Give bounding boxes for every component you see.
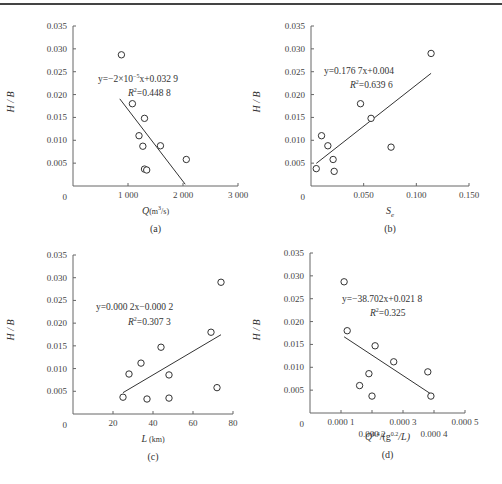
data-point [366,370,372,376]
x-tick-label: 0.000 3 [390,417,418,427]
data-point [388,144,394,150]
y-tick-label: 0.010 [284,362,305,372]
panel-b: 0.0050.0100.0150.0200.0250.0300.03500.05… [251,21,480,235]
y-tick-label: 0.025 [285,67,306,77]
r-squared: R2=0.325 [369,307,406,318]
panel-c: 0.0050.0100.0150.0200.0250.0300.03502040… [5,250,238,463]
data-point [330,156,336,162]
data-point [341,279,347,285]
panel-a: 0.0050.0100.0150.0200.0250.0300.03501 00… [5,21,249,235]
y-tick-label: 0.005 [285,158,306,168]
data-point [138,360,144,366]
y-tick-label: 0.030 [285,44,306,54]
data-point [318,133,324,139]
data-point [428,393,434,399]
y-tick-label: 0.005 [284,385,305,395]
x-tick-label: 60 [189,418,199,428]
data-point [144,396,150,402]
data-point [313,165,319,171]
data-point [120,394,126,400]
x-axis-label: Se [386,205,394,219]
data-point [357,101,363,107]
r-squared: R2=0.448 8 [127,87,171,98]
data-point [214,384,220,390]
y-axis-label: H / B [5,91,16,113]
data-point [118,52,124,58]
x-tick-label: 80 [229,418,239,428]
data-point [325,143,331,149]
y-tick-label: 0.025 [47,67,68,77]
y-tick-label: 0.015 [285,112,306,122]
y-axis-label: H / B [251,91,262,113]
y-tick-label: 0.020 [285,90,306,100]
y-tick-label: 0.030 [284,271,305,281]
data-point [144,167,150,173]
y-tick-label: 0.035 [284,248,305,258]
data-point [166,395,172,401]
y-tick-label: 0.005 [47,158,68,168]
x-tick-label: 2 000 [173,190,194,200]
data-point [331,168,337,174]
y-tick-label: 0.035 [47,21,68,31]
y-tick-label: 0.025 [284,294,305,304]
figure: 0.0050.0100.0150.0200.0250.0300.03501 00… [0,0,502,484]
data-point [372,343,378,349]
data-point [140,143,146,149]
y-tick-label: 0.030 [47,273,68,283]
y-tick-label: 0.010 [47,364,68,374]
data-point [157,143,163,149]
data-point [166,372,172,378]
data-point [425,369,431,375]
x-tick-label: 0.100 [406,190,427,200]
origin-label: 0 [63,192,68,202]
panel-caption: (c) [147,451,158,463]
r-squared: R2=0.307 3 [127,316,171,327]
data-point [428,50,434,56]
x-tick-label: 1 000 [118,190,139,200]
origin-label: 0 [63,420,68,430]
data-point [218,279,224,285]
y-tick-label: 0.020 [47,318,68,328]
y-tick-label: 0.030 [47,44,68,54]
data-point [368,115,374,121]
x-tick-label: 0.000 5 [452,417,480,427]
x-tick-label: 3 000 [228,190,249,200]
y-tick-label: 0.015 [47,112,68,122]
data-point [141,115,147,121]
x-tick-label: 0.150 [459,190,480,200]
origin-label: 0 [300,419,305,429]
y-tick-label: 0.020 [284,317,305,327]
r-squared: R2=0.639 6 [349,79,393,90]
data-point [158,344,164,350]
y-axis-label: H / B [251,319,262,341]
y-tick-label: 0.025 [47,295,68,305]
y-tick-label: 0.035 [285,21,306,31]
data-point [136,133,142,139]
data-point [391,359,397,365]
panel-d: 0.0050.0100.0150.0200.0250.0300.03500.00… [251,248,479,461]
trendline [120,99,185,184]
y-tick-label: 0.015 [284,339,305,349]
data-point [129,101,135,107]
trend-equation: y=0.176 7x+0.004 [324,66,394,76]
panel-caption: (a) [150,223,161,235]
origin-label: 0 [301,192,306,202]
x-tick-label: 0.050 [354,190,375,200]
x-axis-label: L (km) [140,433,164,444]
x-tick-label: 20 [109,418,119,428]
x-axis-label: Q(m3/s) [142,205,169,216]
panel-caption: (d) [382,449,394,461]
x-tick-label: 0.000 1 [328,417,355,427]
panel-caption: (b) [384,223,396,235]
x-tick-label: 0.000 4 [421,429,449,439]
trend-equation: y=−2×10−5x+0.032 9 [98,73,178,84]
y-tick-label: 0.005 [47,386,68,396]
x-axis-label: Q0.4/(g0.2/L) [365,431,411,443]
data-point [208,329,214,335]
y-tick-label: 0.020 [47,90,68,100]
y-axis-label: H / B [5,319,16,341]
data-point [356,382,362,388]
x-tick-label: 40 [149,418,159,428]
data-point [344,328,350,334]
y-tick-label: 0.035 [47,250,68,260]
